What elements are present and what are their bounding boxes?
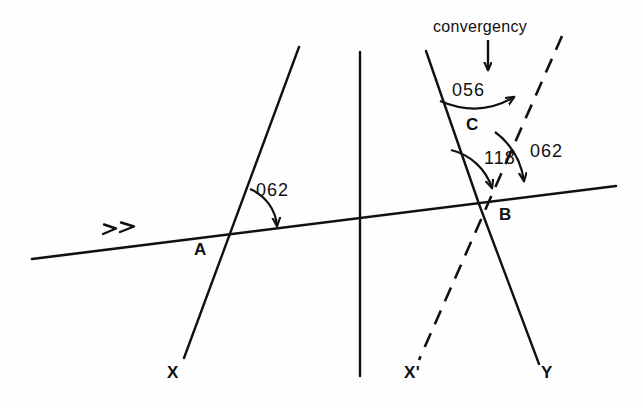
- double-chevron-direction-icon: [103, 223, 134, 235]
- geometry-diagram-canvas: [0, 0, 643, 408]
- angle-label-118-at-b: 118: [484, 148, 516, 169]
- meridian-through-a: [184, 47, 299, 358]
- angle-label-062-at-b: 062: [530, 141, 563, 162]
- point-label-b: B: [499, 205, 512, 225]
- angle-label-056-convergency: 056: [452, 80, 485, 101]
- point-label-y: Y: [541, 363, 553, 383]
- point-label-x-prime: X': [404, 363, 420, 383]
- line-xy: [32, 186, 616, 259]
- point-label-a: A: [194, 240, 207, 260]
- point-label-c: C: [466, 115, 479, 135]
- line-b-y: [479, 204, 539, 364]
- point-label-x: X: [167, 363, 179, 383]
- diagram-page: convergency 062 056 118 062 A B C X X' Y: [0, 0, 643, 408]
- convergency-caption: convergency: [433, 18, 527, 36]
- angle-label-062-at-a: 062: [256, 180, 289, 201]
- line-x-prime-dashed: [419, 36, 562, 360]
